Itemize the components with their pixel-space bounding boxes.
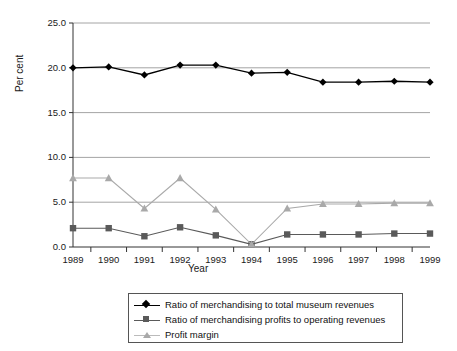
legend-label: Ratio of merchandising profits to operat… [165, 314, 385, 326]
legend-item: Ratio of merchandising to total museum r… [134, 298, 397, 312]
data-point-marker [284, 69, 291, 76]
y-axis-tick-label: 20.0 [28, 62, 66, 73]
chart-legend: Ratio of merchandising to total museum r… [128, 293, 403, 343]
x-axis-tick-label: 1991 [127, 254, 161, 265]
data-point-marker [141, 71, 148, 78]
data-point-marker [320, 231, 326, 237]
data-point-marker [284, 231, 290, 237]
x-axis-tick-label: 1996 [306, 254, 340, 265]
data-point-marker [248, 70, 255, 77]
data-point-marker [355, 231, 361, 237]
legend-item: Profit margin [134, 328, 397, 342]
y-axis-tick-label: 25.0 [28, 17, 66, 28]
data-point-marker [355, 79, 362, 86]
x-axis-tick-label: 1989 [56, 254, 90, 265]
y-axis-tick-label: 0.0 [28, 241, 66, 252]
data-point-marker [391, 230, 397, 236]
x-axis-tick-label: 1990 [92, 254, 126, 265]
data-point-marker [319, 79, 326, 86]
data-point-marker [70, 225, 76, 231]
data-point-marker [176, 174, 184, 181]
data-point-marker [69, 64, 76, 71]
x-axis-tick-label: 1997 [342, 254, 376, 265]
legend-marker-diamond-icon [134, 299, 160, 311]
legend-item: Ratio of merchandising profits to operat… [134, 313, 397, 327]
legend-marker-triangle-icon [134, 329, 160, 341]
data-point-marker [391, 78, 398, 85]
x-axis-tick-label: 1993 [199, 254, 233, 265]
x-axis-tick-label: 1999 [413, 254, 447, 265]
x-axis-tick-label: 1992 [163, 254, 197, 265]
legend-label: Profit margin [165, 329, 219, 341]
data-point-marker [106, 225, 112, 231]
y-axis-tick-label: 15.0 [28, 107, 66, 118]
legend-label: Ratio of merchandising to total museum r… [165, 299, 374, 311]
legend-marker-square-icon [134, 314, 160, 326]
data-point-marker [141, 233, 147, 239]
data-point-marker [426, 79, 433, 86]
data-point-marker [105, 63, 112, 70]
x-axis-tick-label: 1998 [377, 254, 411, 265]
x-axis-tick-label: 1995 [270, 254, 304, 265]
data-point-marker [177, 224, 183, 230]
data-point-marker [213, 232, 219, 238]
x-axis-tick-label: 1994 [235, 254, 269, 265]
y-axis-tick-label: 10.0 [28, 151, 66, 162]
data-point-marker [427, 230, 433, 236]
y-axis-tick-label: 5.0 [28, 196, 66, 207]
line-chart: Per cent Year 0.05.010.015.020.025.0 198… [0, 0, 457, 351]
